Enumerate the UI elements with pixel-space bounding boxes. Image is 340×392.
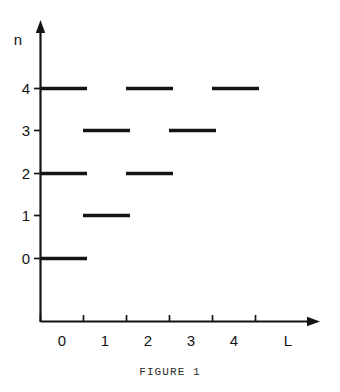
figure-container: 4 3 2 1 0 0 1 2 3 4 n L: [0, 0, 340, 392]
energy-level-diagram: 4 3 2 1 0 0 1 2 3 4 n L: [0, 0, 340, 392]
x-tick-label-3: 3: [187, 332, 195, 349]
x-axis-tick-labels: 0 1 2 3 4: [58, 332, 238, 349]
x-tick-label-2: 2: [144, 332, 152, 349]
y-tick-label-4: 4: [22, 80, 30, 97]
x-axis-label: L: [284, 332, 292, 349]
y-tick-label-1: 1: [22, 207, 30, 224]
x-axis-arrowhead: [307, 317, 320, 326]
x-tick-label-0: 0: [58, 332, 66, 349]
y-axis-tick-labels: 4 3 2 1 0: [22, 80, 30, 267]
y-axis-label: n: [14, 31, 22, 48]
y-tick-label-3: 3: [22, 122, 30, 139]
figure-caption: FIGURE 1: [0, 366, 340, 378]
level-bars-group: [40, 89, 259, 259]
y-tick-label-0: 0: [22, 250, 30, 267]
y-axis-arrowhead: [36, 20, 45, 33]
x-tick-label-1: 1: [101, 332, 109, 349]
y-tick-label-2: 2: [22, 165, 30, 182]
x-tick-label-4: 4: [230, 332, 238, 349]
